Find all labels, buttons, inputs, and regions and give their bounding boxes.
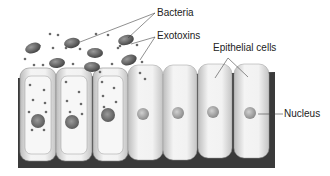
label-bacteria: Bacteria [157,8,194,18]
label-epithelial-cells: Epithelial cells [213,43,276,53]
healthy-cell [234,64,269,158]
nucleus-icon [31,114,45,128]
bacterium-icon [87,48,103,58]
diagram-canvas [0,0,330,176]
nucleus-icon [137,108,149,120]
infected-cell [93,68,128,161]
bacterium-icon [49,57,66,68]
nucleus-icon [101,108,115,122]
nucleus-icon [172,107,184,119]
nucleus-icon [244,107,256,119]
infected-cell [56,68,92,161]
healthy-cell [163,65,197,160]
infected-cell [20,68,56,161]
label-exotoxins: Exotoxins [157,31,200,41]
nucleus-icon [65,115,79,129]
bacterium-icon [84,62,100,72]
bacteria-group [24,33,138,72]
nucleus-icon [207,106,219,118]
label-nucleus: Nucleus [284,109,320,119]
bacterium-icon [24,41,42,56]
healthy-cell [198,64,232,158]
